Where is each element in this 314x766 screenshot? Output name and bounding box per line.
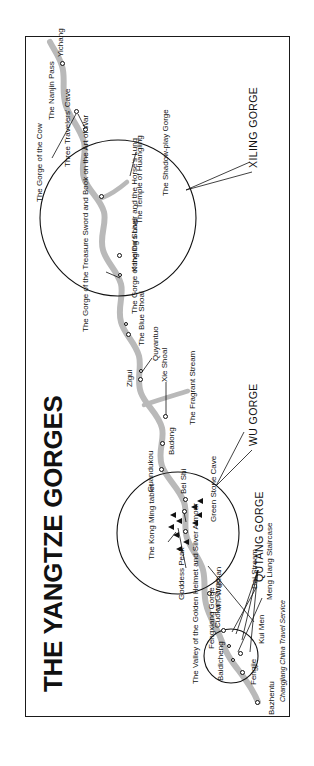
xiling-gorge-callout (186, 162, 252, 190)
label-shadow-play-gorge: The Shadow-play Gorge (162, 109, 170, 196)
node-zigui (138, 377, 143, 382)
label-kong-ming-tablet: The Kong Ming tablet (148, 502, 156, 560)
node-green-stone-cave (182, 509, 187, 514)
label-badong: Badong (168, 427, 176, 455)
node-xie-shoal (163, 414, 168, 419)
node-blue-shoal (126, 332, 131, 337)
node-fengjie (240, 670, 245, 675)
peak-icon (173, 532, 179, 538)
label-three-travelers-cave: Three Travelers' Cave (64, 89, 72, 167)
gorge-name-wu: WU GORGE (248, 383, 259, 446)
node-nanjin-pass (74, 109, 79, 114)
node-cuokai-gorge (221, 628, 226, 633)
node-kong-ming-tablet (183, 529, 188, 534)
label-temple-huangling: The Temple of Huangling (136, 164, 144, 224)
map-page: THE YANGTZE GORGES Bazhentu Fengjie Baid… (0, 0, 314, 766)
label-yichang: Yichang (57, 28, 65, 57)
node-bei-shi (183, 497, 188, 502)
peak-icon (183, 539, 189, 545)
node-quyantuo (139, 369, 143, 373)
label-valley-golden-helmet: The Valley of the Golden Helmet and Silv… (192, 554, 200, 684)
node-treasure-sword-gorge (124, 322, 128, 326)
label-fragrant-stream: The Fragrant Stream (189, 351, 197, 425)
label-blue-shoal: The Blue Shoal (138, 318, 146, 346)
peak-icon (170, 512, 176, 518)
node-temple-huangling (99, 194, 104, 199)
label-bazhentu: Bazhentu (268, 681, 276, 715)
label-nanjin-pass: The Nanjin Pass (48, 74, 56, 120)
node-guandukou (159, 467, 164, 472)
label-kui-men: Kui Men (258, 615, 266, 644)
label-kongling-shoal: Kongling Shoal (131, 228, 139, 272)
node-baidicheng (231, 658, 235, 662)
peak-icon (176, 518, 182, 524)
label-meng-liang-staircase: Meng Liang Staircase (266, 523, 274, 600)
label-goddess-peak: Goddess Peak (178, 548, 186, 600)
label-baidicheng: Baidicheng (217, 641, 225, 681)
label-mt-wushan: MT. Wushan (215, 571, 223, 611)
label-green-stone-cave: Green Stone Cave (210, 456, 218, 522)
gorge-name-xiling: XILING GORGE (248, 87, 259, 168)
label-zigui: Zigui (126, 370, 134, 387)
map-frame: THE YANGTZE GORGES Bazhentu Fengjie Baid… (25, 36, 290, 717)
label-xie-shoal: Xie Shoal (161, 348, 169, 382)
label-gorge-of-the-cow: The Gorge of the Cow (36, 152, 44, 202)
huangling-tributary-path (102, 182, 127, 198)
label-fengjie: Fengjie (250, 659, 258, 685)
label-quyantuo: Quyantuo (152, 326, 160, 361)
node-bazhentu (255, 700, 260, 705)
node-fengxiang-gorge (227, 644, 231, 648)
node-badong (160, 441, 165, 446)
node-yichang (60, 61, 65, 66)
peak-icon (168, 524, 174, 530)
node-ox-liver-gorge (118, 273, 122, 277)
map-rotated-canvas: THE YANGTZE GORGES Bazhentu Fengjie Baid… (26, 37, 291, 718)
node-kongling-shoal (117, 253, 122, 258)
map-credit: Changjiang China Travel Service (279, 600, 286, 702)
gorge-name-qutang: QUTANG GORGE (254, 491, 265, 582)
label-bei-shi: Bei Shi (180, 469, 188, 494)
label-treasure-sword-gorge: The Gorge of the Treasure Sword and Book… (82, 246, 90, 332)
page-title: THE YANGTZE GORGES (38, 395, 69, 692)
node-kui-men (238, 651, 243, 656)
